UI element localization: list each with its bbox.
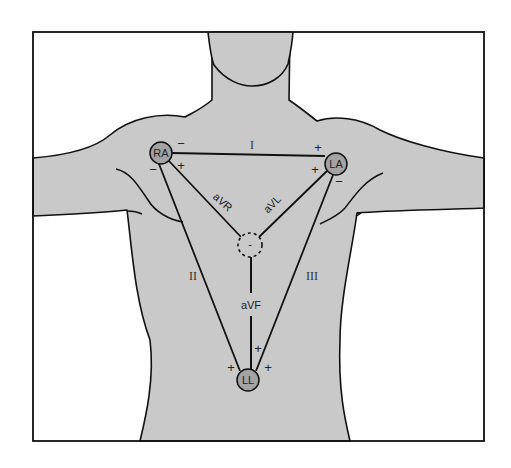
lead-aVF-label: aVF (241, 299, 261, 311)
electrode-LL-label: LL (242, 374, 254, 386)
lead-II-label: II (189, 269, 197, 283)
polarity-la-bottom: − (335, 174, 343, 189)
polarity-la-top: + (314, 140, 322, 155)
einthoven-diagram: - RA LA LL I II III aVR aVL aVF − − + + … (0, 0, 511, 468)
polarity-la-left: + (311, 162, 319, 177)
polarity-ra-left: − (149, 162, 157, 177)
polarity-ra-top: − (177, 136, 185, 151)
central-terminal-label: - (248, 238, 252, 250)
polarity-ll-top: + (254, 341, 262, 356)
lead-III-label: III (306, 269, 318, 283)
electrode-RA: RA (150, 142, 172, 164)
electrode-LL: LL (237, 369, 259, 391)
electrode-LA-label: LA (329, 158, 343, 170)
diagram-svg: - RA LA LL I II III aVR aVL aVF − − + + … (0, 0, 511, 468)
lead-I-label: I (250, 138, 254, 152)
polarity-ra-right: + (177, 158, 185, 173)
electrode-LA: LA (325, 153, 347, 175)
polarity-ll-left: + (227, 360, 235, 375)
polarity-ll-right: + (264, 360, 272, 375)
electrode-RA-label: RA (153, 147, 169, 159)
